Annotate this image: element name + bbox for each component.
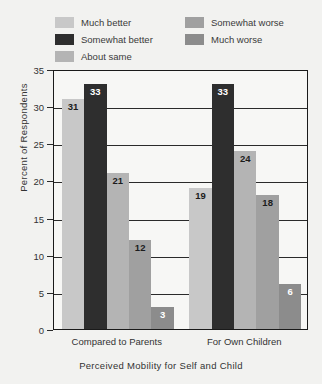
bar[interactable]: 3 [151, 307, 173, 329]
bar-value-label: 33 [84, 87, 106, 97]
y-axis-title: Percent of Respondents [18, 68, 29, 208]
legend-swatch-icon [185, 17, 204, 28]
bar[interactable]: 21 [107, 173, 129, 329]
bar[interactable]: 33 [84, 84, 106, 329]
x-axis-group-label: For Own Children [181, 336, 309, 347]
bar[interactable]: 31 [62, 99, 84, 329]
plot-inner: 313321123193324186 [54, 71, 307, 329]
legend-entry[interactable]: Much better [55, 14, 153, 31]
legend-entry[interactable]: Somewhat better [55, 31, 153, 48]
plot-area: 313321123193324186 [53, 70, 308, 330]
bar-value-label: 33 [212, 87, 234, 97]
legend-label: Much better [81, 17, 131, 28]
y-axis-tick-label: 5 [39, 287, 44, 298]
bar-value-label: 3 [151, 310, 173, 320]
legend-entry[interactable]: Somewhat worse [185, 14, 284, 31]
y-axis-tick-label: 30 [33, 102, 44, 113]
bar-value-label: 19 [189, 191, 211, 201]
y-axis-tick-mark [47, 330, 53, 331]
bar[interactable]: 24 [234, 151, 256, 329]
y-axis-tick-label: 25 [33, 139, 44, 150]
bar[interactable]: 6 [279, 284, 301, 329]
y-axis-tick-label: 20 [33, 176, 44, 187]
bar-value-label: 21 [107, 176, 129, 186]
y-axis-tick-label: 15 [33, 213, 44, 224]
x-axis-title: Perceived Mobility for Self and Child [0, 360, 322, 371]
legend-swatch-icon [55, 51, 74, 62]
bar-value-label: 6 [279, 287, 301, 297]
y-axis-tick-label: 10 [33, 250, 44, 261]
bar-value-label: 12 [129, 243, 151, 253]
y-axis-tick-label: 35 [33, 65, 44, 76]
legend-swatch-icon [55, 34, 74, 45]
legend-label: About same [81, 51, 132, 62]
legend-swatch-icon [185, 34, 204, 45]
y-axis-tick-label: 0 [39, 325, 44, 336]
legend-label: Somewhat better [81, 34, 153, 45]
bar-chart-figure: Much betterSomewhat betterAbout same Som… [0, 0, 322, 384]
legend-swatch-icon [55, 17, 74, 28]
bar[interactable]: 19 [189, 188, 211, 329]
legend-label: Somewhat worse [211, 17, 284, 28]
x-axis-group-label: Compared to Parents [53, 336, 181, 347]
bar[interactable]: 12 [129, 240, 151, 329]
legend-entry[interactable]: Much worse [185, 31, 284, 48]
bar-value-label: 18 [256, 198, 278, 208]
bar-value-label: 31 [62, 102, 84, 112]
legend-column-right: Somewhat worseMuch worse [185, 14, 284, 48]
bar-value-label: 24 [234, 154, 256, 164]
legend-column-left: Much betterSomewhat betterAbout same [55, 14, 153, 65]
bar[interactable]: 33 [212, 84, 234, 329]
chart-legend: Much betterSomewhat betterAbout same Som… [55, 14, 305, 66]
bar[interactable]: 18 [256, 195, 278, 329]
legend-entry[interactable]: About same [55, 48, 153, 65]
legend-label: Much worse [211, 34, 262, 45]
